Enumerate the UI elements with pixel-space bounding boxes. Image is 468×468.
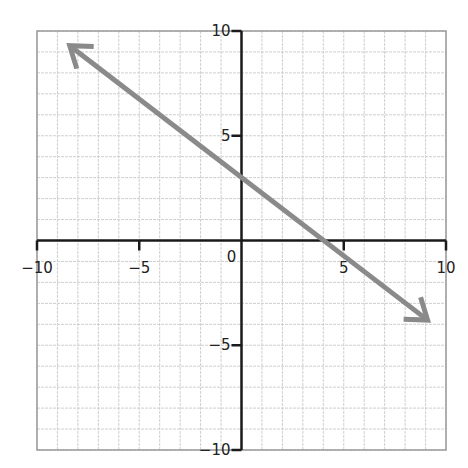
x-tick-label: −5 — [128, 259, 150, 277]
y-tick-label: 10 — [211, 22, 230, 40]
y-tick-label: 5 — [221, 127, 231, 145]
x-tick-label: 0 — [227, 248, 237, 266]
data-line — [70, 46, 428, 320]
coordinate-plane: −10−50510−10−5510 — [0, 0, 468, 468]
x-tick-label: 10 — [436, 259, 455, 277]
line-segment — [70, 46, 428, 320]
y-tick-label: −5 — [208, 336, 230, 354]
y-tick-label: −10 — [199, 441, 231, 459]
x-tick-label: −10 — [21, 259, 53, 277]
